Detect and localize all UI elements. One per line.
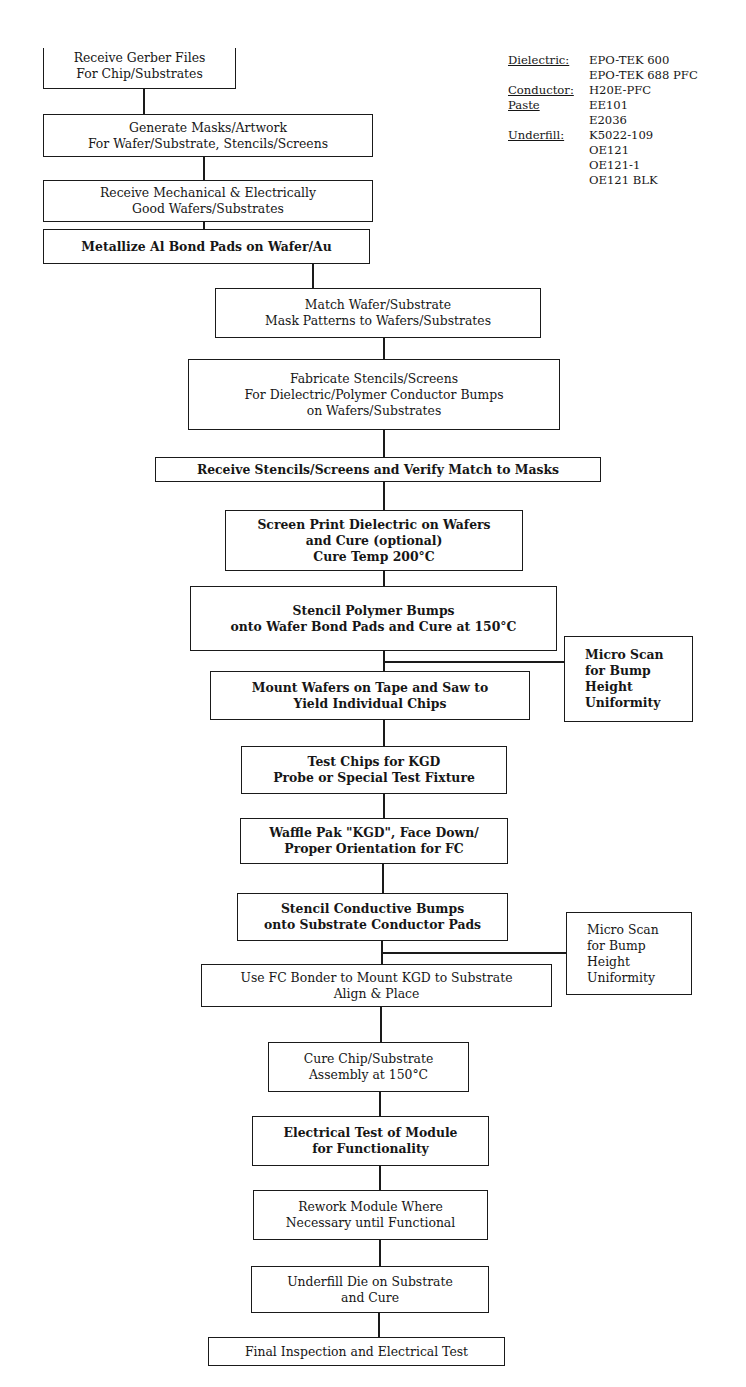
legend-row: PasteEE101: [508, 98, 698, 113]
step-text: for Functionality: [312, 1141, 429, 1157]
step-text: onto Wafer Bond Pads and Cure at 150°C: [231, 619, 517, 635]
legend-key: [508, 68, 589, 83]
step-receive-stencils: Receive Stencils/Screens and Verify Matc…: [155, 457, 601, 482]
step-text: Uniformity: [587, 970, 655, 986]
step-text: Screen Print Dielectric on Wafers: [257, 517, 490, 533]
step-text: Test Chips for KGD: [308, 754, 441, 770]
legend-key: [508, 173, 589, 188]
step-mount-wafers: Mount Wafers on Tape and Saw to Yield In…: [210, 671, 530, 720]
step-text: Underfill Die on Substrate: [287, 1274, 453, 1290]
connector: [379, 1092, 381, 1116]
step-receive-gerber: Receive Gerber Files For Chip/Substrates: [43, 48, 236, 89]
legend-row: E2036: [508, 113, 698, 128]
step-text: Micro Scan: [587, 922, 659, 938]
step-final-inspection: Final Inspection and Electrical Test: [208, 1337, 505, 1366]
step-text: Rework Module Where: [298, 1199, 443, 1215]
legend-value: K5022-109: [589, 128, 653, 143]
legend-value: OE121-1: [589, 158, 640, 173]
step-text: Cure Temp 200°C: [313, 549, 434, 565]
legend-value: EPO-TEK 688 PFC: [589, 68, 698, 83]
step-cure-assembly: Cure Chip/Substrate Assembly at 150°C: [268, 1042, 469, 1092]
legend-value: OE121 BLK: [589, 173, 658, 188]
step-screen-print: Screen Print Dielectric on Wafers and Cu…: [225, 510, 523, 571]
step-text: Fabricate Stencils/Screens: [290, 371, 458, 387]
legend-row: EPO-TEK 688 PFC: [508, 68, 698, 83]
step-text: and Cure (optional): [306, 533, 443, 549]
step-text: Receive Gerber Files: [74, 50, 206, 66]
step-text: for Bump: [585, 663, 651, 679]
step-text: Assembly at 150°C: [309, 1067, 428, 1083]
connector: [380, 1007, 382, 1042]
step-text: Necessary until Functional: [286, 1215, 455, 1231]
legend-key: Dielectric:: [508, 53, 589, 68]
step-text: Use FC Bonder to Mount KGD to Substrate: [241, 970, 513, 986]
step-text: Uniformity: [585, 695, 660, 711]
step-text: for Bump: [587, 938, 646, 954]
step-fc-bonder: Use FC Bonder to Mount KGD to Substrate …: [201, 964, 552, 1007]
connector: [203, 157, 205, 180]
step-text: Yield Individual Chips: [294, 696, 447, 712]
step-stencil-polymer: Stencil Polymer Bumps onto Wafer Bond Pa…: [190, 586, 557, 651]
connector: [381, 952, 566, 954]
step-metallize-pads: Metallize Al Bond Pads on Wafer/Au: [43, 229, 370, 264]
step-text: For Dielectric/Polymer Conductor Bumps: [244, 387, 503, 403]
step-fabricate-stencils: Fabricate Stencils/Screens For Dielectri…: [188, 359, 560, 430]
step-underfill-die: Underfill Die on Substrate and Cure: [251, 1266, 489, 1313]
legend-key: [508, 113, 589, 128]
step-rework-module: Rework Module Where Necessary until Func…: [253, 1190, 488, 1240]
connector: [203, 222, 205, 229]
legend-row: Dielectric:EPO-TEK 600: [508, 53, 698, 68]
step-text: Height: [585, 679, 633, 695]
connector: [379, 1240, 381, 1266]
connector: [379, 1166, 381, 1190]
step-text: Metallize Al Bond Pads on Wafer/Au: [81, 239, 331, 255]
step-test-chips: Test Chips for KGD Probe or Special Test…: [241, 746, 507, 794]
step-text: Mount Wafers on Tape and Saw to: [252, 680, 488, 696]
step-receive-wafers: Receive Mechanical & Electrically Good W…: [43, 180, 373, 222]
legend-value: EE101: [589, 98, 628, 113]
side-step-micro-scan-2: Micro Scan for Bump Height Uniformity: [566, 912, 692, 995]
step-text: Electrical Test of Module: [284, 1125, 458, 1141]
legend-row: Conductor:H20E-PFC: [508, 83, 698, 98]
legend-value: OE121: [589, 143, 629, 158]
step-stencil-conductive: Stencil Conductive Bumps onto Substrate …: [237, 893, 508, 941]
legend-row: OE121 BLK: [508, 173, 698, 188]
connector: [383, 338, 385, 359]
step-text: Mask Patterns to Wafers/Substrates: [265, 313, 491, 329]
connector: [383, 794, 385, 818]
connector: [383, 430, 385, 457]
legend-row: Underfill:K5022-109: [508, 128, 698, 143]
step-electrical-test: Electrical Test of Module for Functional…: [252, 1116, 489, 1166]
connector: [383, 720, 385, 746]
side-step-micro-scan-1: Micro Scan for Bump Height Uniformity: [564, 636, 693, 722]
step-text: Height: [587, 954, 630, 970]
step-text: Final Inspection and Electrical Test: [245, 1344, 468, 1360]
materials-legend: Dielectric:EPO-TEK 600 EPO-TEK 688 PFC C…: [508, 53, 698, 188]
step-text: Stencil Polymer Bumps: [292, 603, 454, 619]
step-text: Align & Place: [334, 986, 420, 1002]
step-waffle-pak: Waffle Pak "KGD", Face Down/ Proper Orie…: [240, 818, 508, 864]
step-generate-masks: Generate Masks/Artwork For Wafer/Substra…: [43, 114, 373, 157]
legend-key: Conductor:: [508, 83, 589, 98]
legend-row: OE121-1: [508, 158, 698, 173]
legend-row: OE121: [508, 143, 698, 158]
step-text: Receive Mechanical & Electrically: [100, 185, 316, 201]
step-text: Match Wafer/Substrate: [305, 297, 451, 313]
step-text: Good Wafers/Substrates: [132, 201, 284, 217]
legend-key: [508, 143, 589, 158]
step-text: For Wafer/Substrate, Stencils/Screens: [88, 136, 328, 152]
legend-value: E2036: [589, 113, 627, 128]
legend-key: Paste: [508, 98, 589, 113]
step-text: Receive Stencils/Screens and Verify Matc…: [197, 462, 559, 478]
legend-value: H20E-PFC: [589, 83, 651, 98]
step-text: Micro Scan: [585, 647, 664, 663]
step-text: on Wafers/Substrates: [307, 403, 442, 419]
step-text: and Cure: [341, 1290, 399, 1306]
connector: [383, 482, 385, 510]
connector: [382, 864, 384, 893]
step-text: Generate Masks/Artwork: [129, 120, 287, 136]
legend-key: Underfill:: [508, 128, 589, 143]
step-text: Proper Orientation for FC: [284, 841, 463, 857]
step-text: onto Substrate Conductor Pads: [264, 917, 481, 933]
step-text: Waffle Pak "KGD", Face Down/: [269, 825, 479, 841]
